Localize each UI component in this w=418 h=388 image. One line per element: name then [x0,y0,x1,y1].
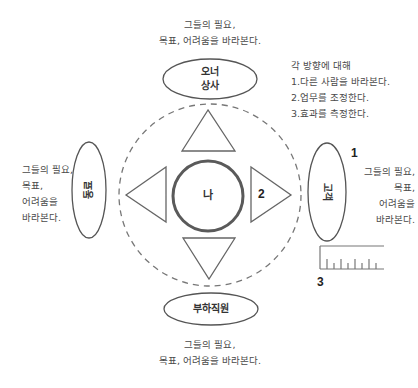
node-top-line2: 상사 [180,79,240,93]
left-note-line1: 그들의 필요, [22,162,73,178]
node-top-line1: 오너 [180,65,240,79]
top-note: 그들의 필요, 목표, 어려움을 바라본다. [130,17,290,49]
left-note-line4: 바라본다. [22,210,73,226]
right-note-line3: 어려움을 [340,196,415,212]
right-note-line4: 바라본다. [340,212,415,228]
direction-item-2: 2.업무를 조정한다. [291,90,390,106]
bottom-note-line1: 그들의 필요, [130,337,290,353]
directions-note: 각 방향에 대해 1.다른 사람을 바라본다. 2.업무를 조정한다. 3.효과… [291,58,390,122]
triangle-down-icon [183,238,235,279]
ruler-icon [320,246,384,269]
right-note-line2: 목표, [340,180,415,196]
marker-3: 3 [317,275,324,289]
right-note-line1: 그들의 필요, [340,164,415,180]
node-me: 나 [193,189,223,203]
triangle-up-icon [182,110,235,151]
node-subordinate: 부하직원 [176,302,246,316]
direction-item-1: 1.다른 사람을 바라본다. [291,74,390,90]
node-customer: 고객 [320,177,334,207]
triangle-right-icon [251,167,291,222]
marker-1: 1 [351,146,358,160]
top-note-line1: 그들의 필요, [130,17,290,33]
directions-title: 각 방향에 대해 [291,58,390,74]
direction-item-3: 3.효과를 측정한다. [291,106,390,122]
right-note: 그들의 필요, 목표, 어려움을 바라본다. [340,164,415,228]
triangle-left-icon [126,167,166,222]
left-note-line2: 목표, [22,178,73,194]
left-note-line3: 어려움을 [22,194,73,210]
bottom-note-line2: 목표, 어려움을 바라본다. [130,353,290,369]
top-note-line2: 목표, 어려움을 바라본다. [130,33,290,49]
bottom-note: 그들의 필요, 목표, 어려움을 바라본다. [130,337,290,369]
node-colleague: 동료 [82,175,96,205]
marker-2: 2 [258,187,265,201]
left-note: 그들의 필요, 목표, 어려움을 바라본다. [22,162,73,226]
node-owner-boss: 오너 상사 [180,65,240,93]
